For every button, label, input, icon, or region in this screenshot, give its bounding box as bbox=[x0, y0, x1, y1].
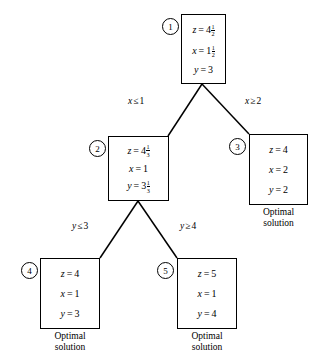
node-index-circle-4: 4 bbox=[21, 262, 38, 279]
node-2-line-z: z = 4 1 3 bbox=[127, 144, 149, 158]
node-1-line-z: z = 4 1 2 bbox=[192, 23, 214, 37]
fraction: 1 2 bbox=[212, 45, 215, 59]
fraction: 1 2 bbox=[211, 24, 214, 38]
branch-label-y-ge-4: y≥4 bbox=[180, 221, 196, 231]
node-3-line-y: y = 2 bbox=[269, 185, 288, 195]
node-4-line-x: x = 1 bbox=[60, 289, 79, 299]
fraction: 1 3 bbox=[147, 180, 150, 194]
node-index-circle-1: 1 bbox=[162, 18, 179, 35]
node-4-line-y: y = 3 bbox=[60, 309, 79, 319]
node-index-circle-3: 3 bbox=[229, 138, 246, 155]
fraction: 1 3 bbox=[146, 144, 149, 158]
node-5-line-z: z = 5 bbox=[198, 269, 217, 279]
node-2-line-y: y = 3 1 3 bbox=[127, 180, 150, 194]
node-1-line-x: x = 1 1 2 bbox=[192, 44, 215, 58]
node-5-line-y: y = 4 bbox=[197, 309, 216, 319]
node-3-line-x: x = 2 bbox=[269, 165, 288, 175]
branch-label-x-ge-2: x≥2 bbox=[245, 96, 261, 106]
node-box-3: z = 4 x = 2 y = 2 bbox=[249, 134, 308, 205]
node-5-optimal-solution-caption: Optimal solution bbox=[177, 331, 237, 352]
node-box-4: z = 4 x = 1 y = 3 bbox=[40, 258, 100, 329]
node-box-1: z = 4 1 2 x = 1 1 2 y = 3 bbox=[181, 14, 226, 84]
node-4-line-z: z = 4 bbox=[61, 269, 80, 279]
node-box-5: z = 5 x = 1 y = 4 bbox=[177, 258, 237, 329]
node-2-line-x: x = 1 bbox=[129, 164, 148, 174]
node-4-optimal-solution-caption: Optimal solution bbox=[40, 331, 100, 352]
branch-label-x-le-1: x≤1 bbox=[128, 96, 144, 106]
node-box-2: z = 4 1 3 x = 1 y = 3 1 3 bbox=[108, 136, 169, 201]
node-1-line-y: y = 3 bbox=[194, 65, 213, 75]
node-5-line-x: x = 1 bbox=[197, 289, 216, 299]
node-index-circle-2: 2 bbox=[89, 140, 106, 157]
node-3-line-z: z = 4 bbox=[269, 145, 288, 155]
branch-label-y-le-3: y≤3 bbox=[72, 221, 88, 231]
node-index-circle-5: 5 bbox=[157, 262, 174, 279]
node-3-optimal-solution-caption: Optimal solution bbox=[249, 207, 308, 228]
branch-and-bound-diagram: 1 z = 4 1 2 x = 1 1 2 y = 3 x≤1 bbox=[0, 0, 322, 357]
